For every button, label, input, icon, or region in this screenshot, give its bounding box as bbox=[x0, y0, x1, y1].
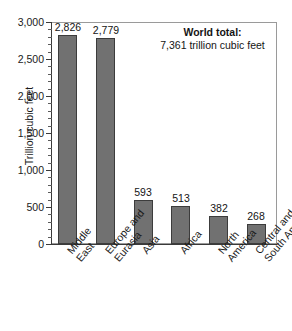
y-tick-label: 2,500 bbox=[0, 54, 44, 64]
y-tick-mark bbox=[46, 59, 52, 60]
y-minor-tick-mark bbox=[48, 126, 52, 127]
annotation-title: World total: bbox=[150, 26, 275, 39]
y-minor-tick-mark bbox=[48, 111, 52, 112]
y-minor-tick-mark bbox=[48, 148, 52, 149]
y-minor-tick-mark bbox=[48, 155, 52, 156]
y-minor-tick-mark bbox=[48, 237, 52, 238]
y-axis-title: Trillion cubic feet bbox=[23, 46, 35, 206]
y-minor-tick-mark bbox=[48, 81, 52, 82]
y-minor-tick-mark bbox=[48, 185, 52, 186]
y-tick-mark bbox=[46, 207, 52, 208]
y-tick-label: 2,000 bbox=[0, 91, 44, 101]
y-minor-tick-mark bbox=[48, 163, 52, 164]
y-minor-tick-mark bbox=[48, 177, 52, 178]
y-minor-tick-mark bbox=[48, 103, 52, 104]
y-tick-label: 1,500 bbox=[0, 128, 44, 138]
y-minor-tick-mark bbox=[48, 89, 52, 90]
y-minor-tick-mark bbox=[48, 229, 52, 230]
y-minor-tick-mark bbox=[48, 37, 52, 38]
y-tick-label: 0 bbox=[0, 239, 44, 249]
y-minor-tick-mark bbox=[48, 66, 52, 67]
y-tick-mark bbox=[46, 244, 52, 245]
y-tick-mark bbox=[46, 133, 52, 134]
annotation-subtitle: 7,361 trillion cubic feet bbox=[150, 39, 275, 52]
bar bbox=[58, 35, 77, 244]
y-minor-tick-mark bbox=[48, 214, 52, 215]
y-tick-label: 500 bbox=[0, 202, 44, 212]
y-minor-tick-mark bbox=[48, 200, 52, 201]
y-minor-tick-mark bbox=[48, 140, 52, 141]
y-minor-tick-mark bbox=[48, 74, 52, 75]
world-total-annotation: World total: 7,361 trillion cubic feet bbox=[150, 26, 275, 52]
y-tick-mark bbox=[46, 96, 52, 97]
bar bbox=[96, 38, 115, 244]
y-tick-label: 1,000 bbox=[0, 165, 44, 175]
bar-value-label: 2,779 bbox=[76, 25, 136, 36]
y-minor-tick-mark bbox=[48, 44, 52, 45]
bar-chart: Trillion cubic feet 05001,0001,5002,0002… bbox=[0, 0, 292, 331]
y-minor-tick-mark bbox=[48, 192, 52, 193]
y-minor-tick-mark bbox=[48, 222, 52, 223]
y-minor-tick-mark bbox=[48, 52, 52, 53]
y-tick-mark bbox=[46, 170, 52, 171]
y-minor-tick-mark bbox=[48, 118, 52, 119]
